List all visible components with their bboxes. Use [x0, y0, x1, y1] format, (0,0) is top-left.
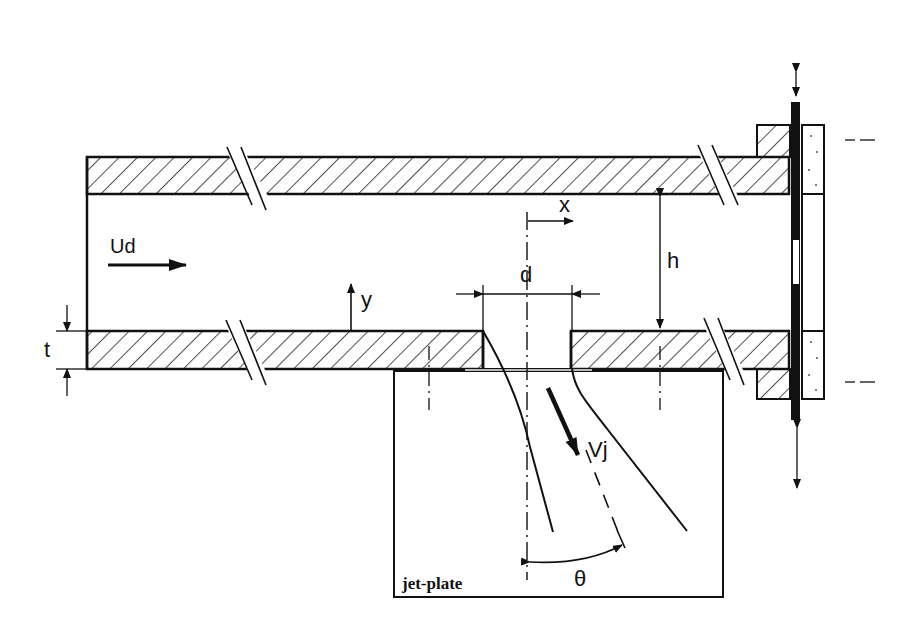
- diameter-dimension: [456, 285, 600, 331]
- jet-plate: [394, 346, 723, 597]
- channel-height-label: h: [667, 250, 679, 272]
- jet-plate-label: jet-plate: [402, 575, 462, 592]
- wall-thickness-label: t: [44, 339, 50, 361]
- jet-angle-label: θ: [574, 568, 586, 590]
- thickness-dimension: [56, 305, 87, 396]
- hole-diameter-label: d: [520, 264, 532, 286]
- y-axis-label: y: [361, 289, 372, 311]
- channel-jet-diagram: [0, 0, 900, 632]
- jet-velocity-label: Vj: [588, 439, 608, 461]
- inflow-velocity-label: Ud: [110, 236, 136, 256]
- upper-wall: [87, 145, 789, 210]
- angle-theta: [530, 530, 625, 562]
- x-axis-label: x: [559, 194, 570, 216]
- sliding-plate: [791, 72, 800, 488]
